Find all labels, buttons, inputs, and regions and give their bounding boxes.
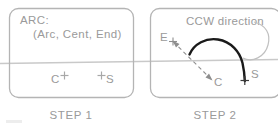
step1-start-point: S xyxy=(98,72,115,86)
step2-start-label: S xyxy=(251,68,259,80)
step2-end-label: E xyxy=(160,31,168,43)
figure-svg: ARC: (Arc, Cent, End) C S STEP 1 xyxy=(0,0,278,130)
step1-center-label: C xyxy=(51,73,59,85)
artifact-speck xyxy=(6,120,22,123)
radius-arrowhead-center xyxy=(206,74,213,81)
step-2-caption: STEP 2 xyxy=(193,109,236,121)
figure-canvas: ARC: (Arc, Cent, End) C S STEP 1 xyxy=(0,0,278,130)
step1-start-cross-icon xyxy=(98,72,106,80)
panel-step-1: ARC: (Arc, Cent, End) C S STEP 1 xyxy=(10,9,134,122)
ccw-leader-curve xyxy=(243,22,269,60)
step-1-caption: STEP 1 xyxy=(49,109,92,121)
step1-start-label: S xyxy=(106,73,114,85)
step1-center-cross-icon xyxy=(61,72,69,80)
arc-command-args: (Arc, Cent, End) xyxy=(33,28,122,40)
step2-center-label: C xyxy=(214,76,222,88)
step2-start-cross-icon xyxy=(241,76,250,85)
arc-command-label: ARC: xyxy=(20,14,49,26)
ccw-direction-annotation: CCW direction xyxy=(186,15,264,27)
scan-line xyxy=(0,60,278,64)
step1-center-point: C xyxy=(51,72,69,86)
panel-step-2: CCW direction E C xyxy=(151,9,279,122)
